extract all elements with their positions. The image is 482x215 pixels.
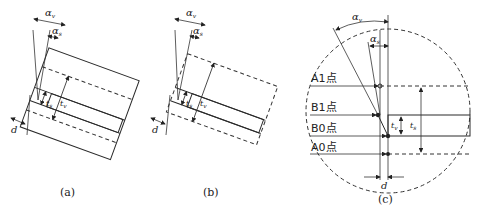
d-label: d xyxy=(11,124,17,135)
point-b0 xyxy=(386,134,390,138)
panel-b: αv αs ts tv d (c) (b) xyxy=(151,7,278,199)
hatched-layer xyxy=(388,115,470,136)
tv-label: tv xyxy=(200,99,207,109)
label-a0: A0点 xyxy=(311,141,337,154)
hatched-layer xyxy=(47,94,123,133)
label-b0: B0点 xyxy=(311,122,337,135)
point-a0 xyxy=(386,152,390,156)
alpha-v-label: αv xyxy=(352,11,363,23)
ts-label: ts xyxy=(410,121,416,131)
panel-a: αv αs ts tv d (a) xyxy=(11,7,139,199)
alpha-v-label: αv xyxy=(45,7,56,19)
tool-body-dashed xyxy=(166,54,277,145)
d-label: d xyxy=(381,180,387,191)
hatched-layer xyxy=(187,94,263,133)
d-label: d xyxy=(152,124,158,135)
label-b1: B1点 xyxy=(311,101,337,114)
alpha-s-label: αs xyxy=(370,33,380,45)
tv-label: tv xyxy=(60,99,67,109)
alpha-v-label: αv xyxy=(186,7,197,19)
caption-a: (a) xyxy=(60,186,75,199)
caption-c: (c) xyxy=(378,193,393,206)
ts-label: ts xyxy=(46,99,52,109)
label-a1: A1点 xyxy=(311,72,337,85)
ts-label: ts xyxy=(186,99,192,109)
diagram-canvas: αv αs ts tv d (a) αv αs ts tv d (c) (b) xyxy=(0,0,482,215)
alpha-s-label: αs xyxy=(52,25,62,37)
caption-b: (b) xyxy=(203,186,219,199)
panel-c: ts tv αv αs d A1点 B1点 B0点 A0点 (c) xyxy=(306,11,470,206)
alpha-s-label: αs xyxy=(193,25,203,37)
point-b1 xyxy=(376,113,380,117)
tv-label: tv xyxy=(391,121,398,131)
